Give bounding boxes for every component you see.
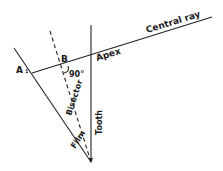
label-central-ray: Central ray — [145, 9, 202, 35]
label-bisector: Bisector — [64, 79, 84, 117]
central-ray-line — [32, 17, 212, 73]
label-apex: Apex — [95, 46, 122, 63]
label-point-b: B — [61, 54, 68, 64]
label-point-a: A — [16, 65, 23, 75]
label-tooth: Tooth — [95, 110, 104, 135]
label-angle-90: 90° — [69, 70, 84, 79]
right-angle-arc — [64, 66, 69, 73]
label-point-a-sub: 1 — [25, 68, 29, 74]
bisecting-angle-diagram: Central ray Apex A 1 B 90° Bisector Toot… — [0, 0, 223, 171]
